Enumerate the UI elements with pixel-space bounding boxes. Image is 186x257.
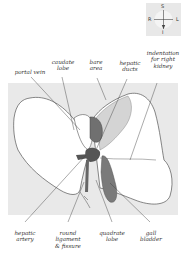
- label-caudate-lobe: caudate lobe: [48, 59, 78, 72]
- label-gall-bladder: gall bladder: [136, 230, 166, 243]
- label-bare-area: bare area: [83, 59, 109, 72]
- label-hepatic-artery: hepatic artery: [8, 230, 42, 243]
- liver-illustration: [0, 0, 186, 257]
- label-indentation-kidney: indentation for right kidney: [140, 50, 186, 69]
- label-round-ligament: round ligament & fissure: [50, 230, 86, 249]
- label-quadrate-lobe: quadrate lobe: [96, 230, 128, 243]
- label-portal-vein: portal vein: [8, 69, 52, 75]
